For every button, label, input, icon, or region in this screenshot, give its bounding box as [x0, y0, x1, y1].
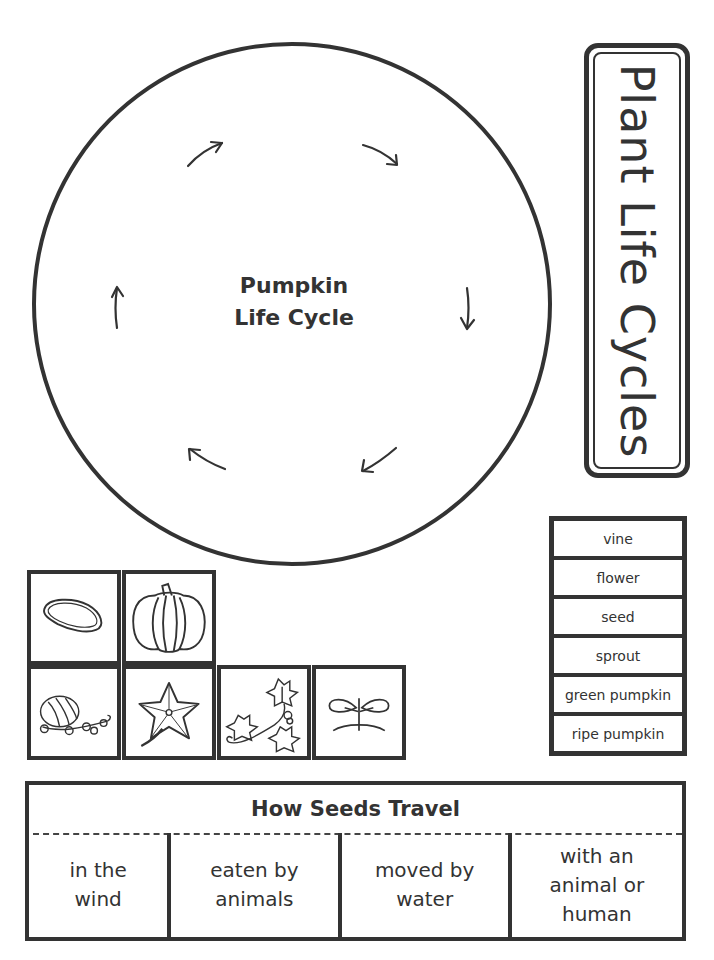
word-card-sprout[interactable]: sprout: [554, 638, 682, 673]
picture-card-ripe-pumpkin[interactable]: [122, 570, 216, 665]
sprout-icon: [316, 669, 402, 756]
word-card-seed[interactable]: seed: [554, 599, 682, 634]
flower-icon: [126, 669, 212, 756]
word-card-vine[interactable]: vine: [554, 521, 682, 556]
picture-card-seed[interactable]: [27, 570, 121, 665]
side-title: Plant Life Cycles: [610, 63, 664, 458]
green-pumpkin-on-vine-icon: [31, 669, 117, 756]
seeds-cell-water: moved by water: [342, 833, 512, 937]
word-card-ripe-pumpkin[interactable]: ripe pumpkin: [554, 716, 682, 751]
seeds-cell-animal-or-human: with an animal or human: [512, 833, 682, 937]
cycle-title-line2: Life Cycle: [194, 302, 394, 334]
picture-card-vine[interactable]: [217, 665, 311, 760]
seeds-travel-row: in the wind eaten by animals moved by wa…: [29, 833, 682, 937]
seeds-cell-wind: in the wind: [29, 833, 171, 937]
cycle-title-line1: Pumpkin: [194, 270, 394, 302]
how-seeds-travel-table: How Seeds Travel in the wind eaten by an…: [25, 781, 686, 941]
ripe-pumpkin-icon: [126, 574, 212, 661]
side-title-box: Plant Life Cycles: [584, 43, 690, 478]
word-card-flower[interactable]: flower: [554, 560, 682, 595]
word-card-green-pumpkin[interactable]: green pumpkin: [554, 677, 682, 712]
word-bank: vine flower seed sprout green pumpkin ri…: [549, 516, 687, 756]
picture-card-green-pumpkin[interactable]: [27, 665, 121, 760]
seeds-cell-animals: eaten by animals: [171, 833, 341, 937]
picture-card-flower[interactable]: [122, 665, 216, 760]
picture-card-sprout[interactable]: [312, 665, 406, 760]
seeds-travel-title: How Seeds Travel: [29, 797, 682, 821]
cycle-title: Pumpkin Life Cycle: [194, 270, 394, 334]
vine-icon: [221, 669, 307, 756]
pumpkin-seed-icon: [31, 574, 117, 661]
